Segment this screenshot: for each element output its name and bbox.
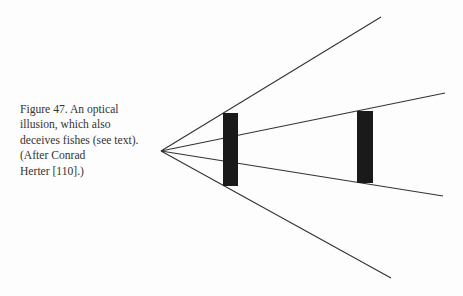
- ray-line-upper-outer: [161, 17, 381, 151]
- near-bar: [223, 113, 238, 186]
- ray-line-lower-inner: [161, 151, 443, 196]
- far-bar: [357, 111, 373, 183]
- ray-line-lower-outer: [161, 151, 391, 278]
- ray-line-upper-inner: [161, 93, 445, 151]
- illusion-figure: [0, 0, 463, 296]
